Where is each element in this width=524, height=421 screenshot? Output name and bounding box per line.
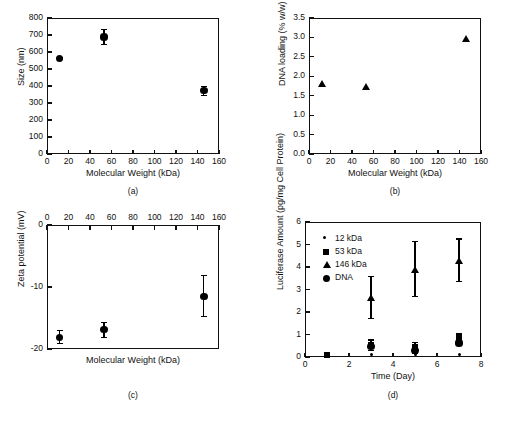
error-cap-bottom-d-2-0 <box>368 318 374 319</box>
error-cap-bottom-d-3-0 <box>368 350 374 351</box>
legend-item-0[interactable]: 12 kDa <box>321 232 399 245</box>
x-tick-d-2 <box>392 353 393 358</box>
x-tick-label-d-0: 0 <box>291 360 319 369</box>
data-point-d-3-1 <box>411 347 418 354</box>
error-cap-bottom-d-2-1 <box>412 296 418 297</box>
y-tick-label-d-2: 2 <box>271 307 301 316</box>
x-tick-d-1 <box>348 353 349 358</box>
legend-label-0: 12 kDa <box>335 233 362 244</box>
y-tick-d-6 <box>305 221 310 222</box>
y-tick-d-0 <box>305 356 310 357</box>
data-point-d-2-0 <box>367 294 375 301</box>
legend-item-3[interactable]: DNA <box>321 271 399 284</box>
legend-label-2: 146 kDa <box>335 259 367 270</box>
panel-caption-d: (d) <box>368 390 418 400</box>
legend-marker-star <box>323 236 326 239</box>
data-point-d-0-3 <box>458 353 461 356</box>
x-tick-label-d-4: 8 <box>467 360 495 369</box>
error-cap-bottom-d-2-2 <box>456 281 462 282</box>
y-tick-label-d-0: 0 <box>271 352 301 361</box>
y-tick-d-3 <box>305 289 310 290</box>
y-tick-d-4 <box>305 266 310 267</box>
x-tick-d-4 <box>480 353 481 358</box>
legend-item-2[interactable]: 146 kDa <box>321 258 399 271</box>
legend-marker-triangle <box>323 261 331 268</box>
data-point-d-3-2 <box>455 339 462 346</box>
error-cap-top-d-2-1 <box>412 241 418 242</box>
x-tick-label-d-2: 4 <box>379 360 407 369</box>
x-tick-d-3 <box>436 353 437 358</box>
x-tick-label-d-3: 6 <box>423 360 451 369</box>
error-cap-top-d-1-1 <box>368 339 374 340</box>
y-tick-d-1 <box>305 334 310 335</box>
data-point-d-0-1 <box>370 353 373 356</box>
data-point-d-2-2 <box>455 257 463 264</box>
y-axis-title-d: Luciferase Amount (pg/mg Cell Protein) <box>275 133 285 290</box>
legend-label-1: 53 kDa <box>335 246 362 257</box>
y-tick-d-5 <box>305 244 310 245</box>
y-tick-d-2 <box>305 311 310 312</box>
data-point-d-1-0 <box>324 352 330 358</box>
legend-marker-square <box>323 249 329 255</box>
panel-d: 024680123456Time (Day)Luciferase Amount … <box>0 0 524 421</box>
data-point-d-2-1 <box>411 266 419 273</box>
x-tick-label-d-1: 2 <box>335 360 363 369</box>
legend-marker-circle <box>323 275 330 282</box>
figure-root: 0204060801001201401600100200300400500600… <box>0 0 524 421</box>
error-cap-top-d-2-2 <box>456 238 462 239</box>
legend-label-3: DNA <box>335 272 353 283</box>
y-tick-label-d-1: 1 <box>271 330 301 339</box>
x-axis-title-d: Time (Day) <box>303 371 483 381</box>
legend-d: 12 kDa53 kDa146 kDaDNA <box>321 232 399 284</box>
legend-item-1[interactable]: 53 kDa <box>321 245 399 258</box>
